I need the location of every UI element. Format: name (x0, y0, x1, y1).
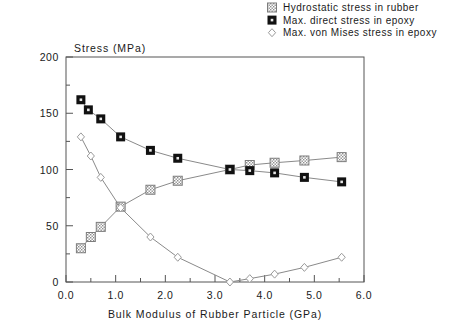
marker-center (119, 136, 122, 139)
marker-square (337, 153, 346, 162)
marker-center (99, 118, 102, 121)
marker-square (146, 185, 155, 194)
y-tick-label: 50 (46, 220, 59, 232)
marker-center (248, 169, 251, 172)
data-point (173, 176, 182, 185)
legend-label-1: Hydrostatic stress in rubber (283, 2, 419, 13)
marker-center (271, 19, 274, 22)
marker-diamond (338, 253, 345, 261)
data-point (301, 263, 308, 271)
legend-label-3: Max. von Mises stress in epoxy (283, 27, 437, 38)
marker-center (80, 98, 83, 101)
marker-square (270, 158, 279, 167)
stress-vs-bulk-modulus-chart: Hydrostatic stress in rubberMax. direct … (0, 0, 451, 330)
data-point (338, 253, 345, 261)
data-point (87, 152, 94, 160)
data-point (246, 275, 253, 283)
data-point (300, 173, 309, 182)
data-point (337, 153, 346, 162)
marker-square (86, 233, 95, 242)
marker-center (273, 172, 276, 175)
data-point (77, 133, 84, 141)
data-point (337, 177, 346, 186)
chart-figure: Hydrostatic stress in rubberMax. direct … (0, 0, 451, 330)
data-point (245, 166, 254, 175)
data-point (116, 132, 125, 141)
legend-marker-3 (268, 29, 275, 37)
marker-diamond (77, 133, 84, 141)
data-point (146, 185, 155, 194)
y-tick-label: 200 (40, 51, 59, 63)
data-point (270, 168, 279, 177)
data-point (96, 222, 105, 231)
data-point (84, 105, 93, 114)
marker-center (229, 168, 232, 171)
data-point (271, 270, 278, 278)
marker-center (149, 149, 152, 152)
marker-square (173, 176, 182, 185)
marker-diamond (271, 270, 278, 278)
legend-marker-1 (268, 3, 277, 12)
marker-square (96, 222, 105, 231)
data-point (76, 95, 85, 104)
data-point (173, 154, 182, 163)
data-point (270, 158, 279, 167)
marker-diamond (226, 278, 233, 286)
data-point (96, 114, 105, 123)
marker-center (176, 157, 179, 160)
x-tick-label: 0.0 (58, 289, 74, 301)
data-point (174, 253, 181, 261)
marker-square (300, 156, 309, 165)
marker-center (303, 176, 306, 179)
x-tick-label: 2.0 (157, 289, 173, 301)
data-point (76, 244, 85, 253)
chart-series (76, 95, 346, 286)
marker-diamond (97, 173, 104, 181)
x-tick-label: 3.0 (207, 289, 223, 301)
legend-marker-2 (268, 16, 277, 25)
series-2 (76, 95, 346, 186)
x-tick-label: 5.0 (306, 289, 322, 301)
marker-diamond (87, 152, 94, 160)
x-axis-title: Bulk Modulus of Rubber Particle (GPa) (108, 308, 322, 320)
data-point (86, 233, 95, 242)
marker-center (340, 181, 343, 184)
legend-label-2: Max. direct stress in epoxy (283, 15, 415, 26)
marker-diamond (301, 263, 308, 271)
marker-square (76, 244, 85, 253)
marker-square (268, 3, 277, 12)
x-tick-label: 6.0 (356, 289, 372, 301)
y-axis-title: Stress (MPa) (74, 42, 146, 54)
marker-diamond (246, 275, 253, 283)
chart-axes: 0.01.02.03.04.05.06.0050100150200 (40, 51, 373, 301)
data-point (146, 146, 155, 155)
x-tick-label: 1.0 (107, 289, 123, 301)
data-point (226, 278, 233, 286)
plot-frame (66, 57, 364, 282)
data-point (300, 156, 309, 165)
marker-diamond (268, 29, 275, 37)
data-point (225, 165, 234, 174)
marker-diamond (174, 253, 181, 261)
y-tick-label: 0 (53, 276, 59, 288)
data-point (97, 173, 104, 181)
y-tick-label: 100 (40, 164, 59, 176)
chart-legend: Hydrostatic stress in rubberMax. direct … (268, 2, 437, 38)
x-tick-label: 4.0 (256, 289, 272, 301)
marker-center (87, 109, 90, 112)
y-tick-label: 150 (40, 107, 59, 119)
